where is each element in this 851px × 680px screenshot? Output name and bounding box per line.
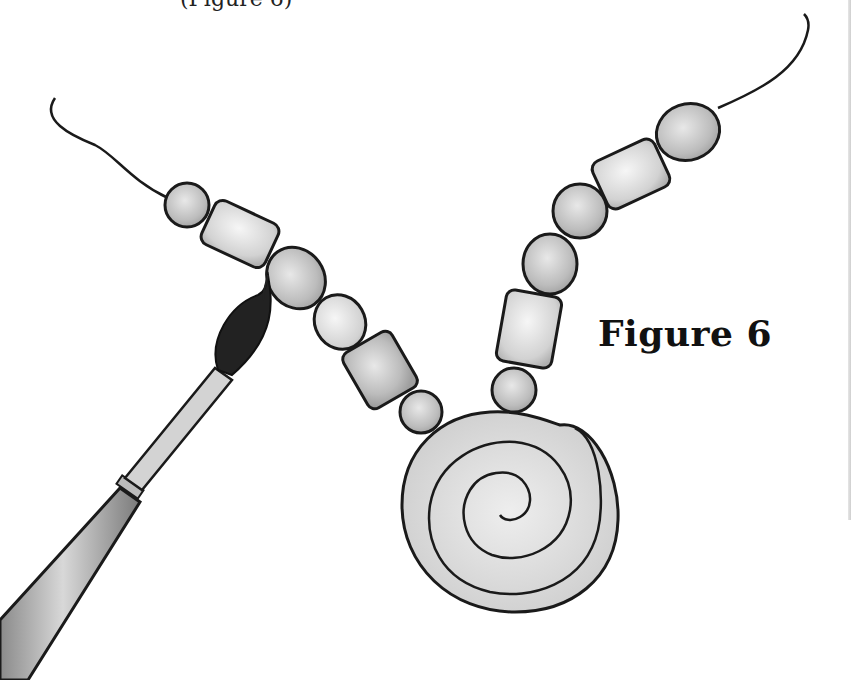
figure-caption: Figure 6: [598, 312, 772, 354]
spiral-pendant: [402, 412, 618, 612]
right-bead-strand: [492, 95, 728, 412]
paintbrush: [0, 275, 271, 680]
